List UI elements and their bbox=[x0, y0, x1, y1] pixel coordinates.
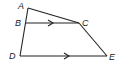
point-label-e: E bbox=[109, 52, 116, 62]
point-label-b: B bbox=[15, 18, 21, 28]
point-label-c: C bbox=[82, 18, 89, 28]
segment-ad bbox=[20, 8, 28, 56]
segment-ac bbox=[28, 8, 79, 23]
point-label-d: D bbox=[9, 51, 16, 61]
geometry-diagram: A B C D E bbox=[0, 0, 120, 66]
point-label-a: A bbox=[17, 1, 24, 11]
